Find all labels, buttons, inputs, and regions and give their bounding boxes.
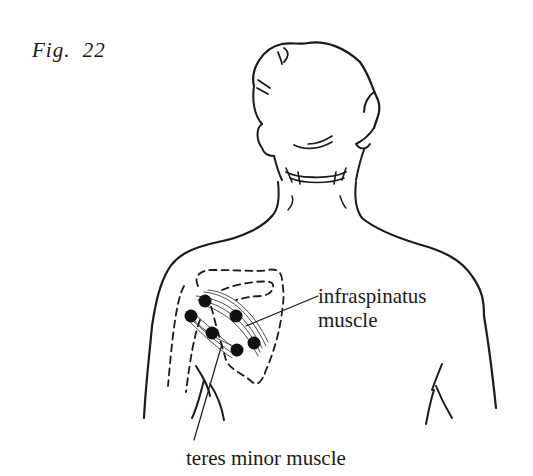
infraspinatus-label: infraspinatus muscle xyxy=(318,284,426,332)
trigger-point-icon xyxy=(206,327,219,340)
trigger-point-icon xyxy=(231,344,244,357)
anatomy-illustration xyxy=(0,0,533,476)
trigger-point-icon xyxy=(185,310,198,323)
trigger-point-icon xyxy=(199,295,212,308)
infraspinatus-label-line1: infraspinatus xyxy=(318,284,426,308)
trigger-point-icon xyxy=(248,337,261,350)
scapula-outline xyxy=(197,269,284,383)
trigger-point-icon xyxy=(230,310,243,323)
head-outline xyxy=(253,42,379,128)
teres-minor-label: teres minor muscle xyxy=(186,446,346,470)
infraspinatus-label-line2: muscle xyxy=(318,308,426,332)
